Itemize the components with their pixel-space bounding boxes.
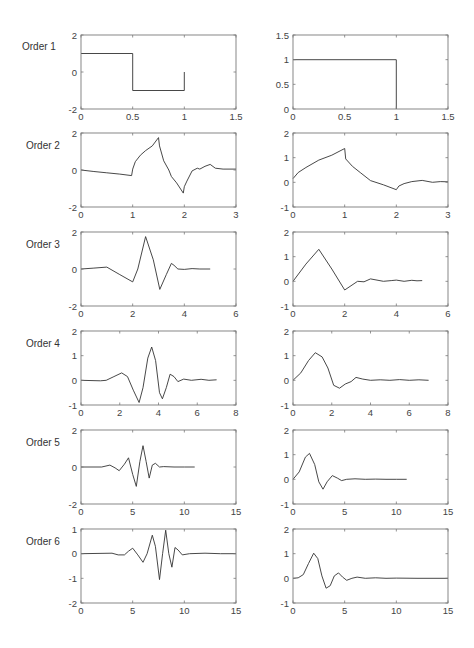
axes-box — [293, 133, 448, 207]
y-tick-label: 0 — [284, 474, 289, 485]
y-tick-label: 2 — [284, 326, 289, 337]
data-line — [293, 60, 396, 109]
axes-box — [293, 232, 448, 306]
x-tick-label: 10 — [179, 605, 190, 616]
x-tick-label: 8 — [233, 407, 238, 418]
y-tick-label: 2 — [284, 128, 289, 139]
axes-box — [293, 35, 448, 109]
data-line — [81, 138, 236, 194]
y-tick-label: -1 — [281, 400, 289, 411]
x-tick-label: 0 — [78, 605, 83, 616]
y-tick-label: 0 — [72, 264, 77, 275]
axes-box — [81, 232, 236, 306]
y-tick-label: -2 — [69, 598, 77, 609]
x-tick-label: 0.5 — [126, 111, 139, 122]
data-line — [81, 237, 210, 290]
y-tick-label: 1 — [284, 54, 289, 65]
data-line — [81, 54, 184, 91]
x-tick-label: 5 — [342, 506, 347, 517]
y-tick-label: 0 — [72, 548, 77, 559]
x-tick-label: 2 — [182, 209, 187, 220]
subplot-order-5-right: 051015-1012 — [281, 425, 454, 518]
y-tick-label: 1 — [284, 251, 289, 262]
y-tick-label: 1 — [72, 350, 77, 361]
y-tick-label: -1 — [69, 573, 77, 584]
data-line — [293, 553, 448, 588]
axes-box — [81, 133, 236, 207]
data-line — [81, 347, 217, 403]
x-tick-label: 4 — [368, 407, 373, 418]
data-line — [293, 453, 407, 489]
data-line — [293, 353, 429, 389]
y-tick-label: 0 — [72, 375, 77, 386]
subplot-order-2-right: 0123-1012 — [281, 128, 451, 221]
x-tick-label: 1.5 — [229, 111, 242, 122]
x-tick-label: 2 — [394, 209, 399, 220]
x-tick-label: 4 — [156, 407, 161, 418]
x-tick-label: 5 — [130, 605, 135, 616]
y-tick-label: 0 — [72, 165, 77, 176]
x-tick-label: 0.5 — [338, 111, 351, 122]
x-tick-label: 10 — [391, 605, 402, 616]
y-tick-label: -1 — [281, 202, 289, 213]
x-tick-label: 0 — [78, 506, 83, 517]
axes-box — [293, 529, 448, 603]
y-tick-label: 2 — [72, 30, 77, 41]
y-tick-label: 2 — [284, 227, 289, 238]
x-tick-label: 3 — [233, 209, 238, 220]
x-tick-label: 0 — [290, 209, 295, 220]
x-tick-label: 0 — [78, 111, 83, 122]
subplot-grid: 00.511.5-20200.511.500.511.50123-2020123… — [0, 0, 474, 648]
x-tick-label: 2 — [329, 407, 334, 418]
y-tick-label: 1 — [284, 548, 289, 559]
y-tick-label: -2 — [69, 202, 77, 213]
y-tick-label: 1 — [284, 152, 289, 163]
x-tick-label: 2 — [130, 308, 135, 319]
x-tick-label: 2 — [117, 407, 122, 418]
x-tick-label: 10 — [179, 506, 190, 517]
x-tick-label: 0 — [290, 506, 295, 517]
data-line — [81, 446, 195, 487]
y-tick-label: 0 — [284, 375, 289, 386]
data-line — [293, 249, 422, 290]
x-tick-label: 5 — [130, 506, 135, 517]
y-tick-label: 0 — [284, 104, 289, 115]
subplot-order-3-left: 0246-202 — [69, 227, 239, 320]
x-tick-label: 6 — [407, 407, 412, 418]
x-tick-label: 0 — [78, 209, 83, 220]
subplot-order-6-left: 051015-2-101 — [69, 524, 242, 617]
y-tick-label: -2 — [69, 301, 77, 312]
x-tick-label: 6 — [445, 308, 450, 319]
y-tick-label: 0 — [72, 67, 77, 78]
y-tick-label: 0 — [284, 177, 289, 188]
subplot-order-6-right: 051015-1012 — [281, 524, 454, 617]
y-tick-label: 1.5 — [276, 30, 289, 41]
y-tick-label: 1 — [284, 449, 289, 460]
x-tick-label: 0 — [290, 111, 295, 122]
x-tick-label: 0 — [290, 308, 295, 319]
y-tick-label: -1 — [281, 301, 289, 312]
y-tick-label: 2 — [72, 425, 77, 436]
y-tick-label: -2 — [69, 104, 77, 115]
x-tick-label: 2 — [342, 308, 347, 319]
y-tick-label: 2 — [72, 128, 77, 139]
subplot-order-5-left: 051015-202 — [69, 425, 242, 518]
x-tick-label: 1 — [342, 209, 347, 220]
subplot-order-1-right: 00.511.500.511.5 — [276, 30, 455, 123]
y-tick-label: 0 — [284, 573, 289, 584]
subplot-order-1-left: 00.511.5-202 — [69, 30, 243, 123]
y-tick-label: 2 — [72, 326, 77, 337]
y-tick-label: 0 — [72, 462, 77, 473]
axes-box — [81, 529, 236, 603]
subplot-order-4-right: 02468-1012 — [281, 326, 451, 419]
x-tick-label: 1 — [182, 111, 187, 122]
y-tick-label: 2 — [284, 425, 289, 436]
y-tick-label: 0 — [284, 276, 289, 287]
y-tick-label: 2 — [72, 227, 77, 238]
x-tick-label: 5 — [342, 605, 347, 616]
x-tick-label: 15 — [231, 605, 242, 616]
axes-box — [81, 331, 236, 405]
axes-box — [293, 430, 448, 504]
y-tick-label: 2 — [284, 524, 289, 535]
x-tick-label: 3 — [445, 209, 450, 220]
